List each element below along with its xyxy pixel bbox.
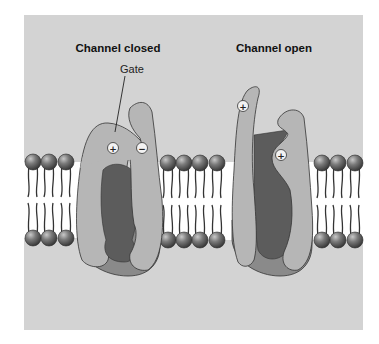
- ion-channel-diagram: + − + + Channel closed Channel open Gate: [0, 0, 379, 344]
- positive-charge-symbol: +: [277, 151, 285, 161]
- closed-negative-charge: −: [137, 143, 148, 154]
- negative-charge-symbol: −: [138, 144, 146, 154]
- closed-positive-charge: +: [108, 143, 119, 154]
- positive-charge-symbol: +: [239, 102, 247, 112]
- positive-charge-symbol: +: [109, 144, 117, 154]
- gate-label: Gate: [120, 63, 144, 75]
- open-positive-charge-inner: +: [276, 150, 287, 161]
- channel-open-title: Channel open: [236, 42, 312, 54]
- open-positive-charge-top: +: [238, 101, 249, 112]
- channel-closed-title: Channel closed: [76, 42, 161, 54]
